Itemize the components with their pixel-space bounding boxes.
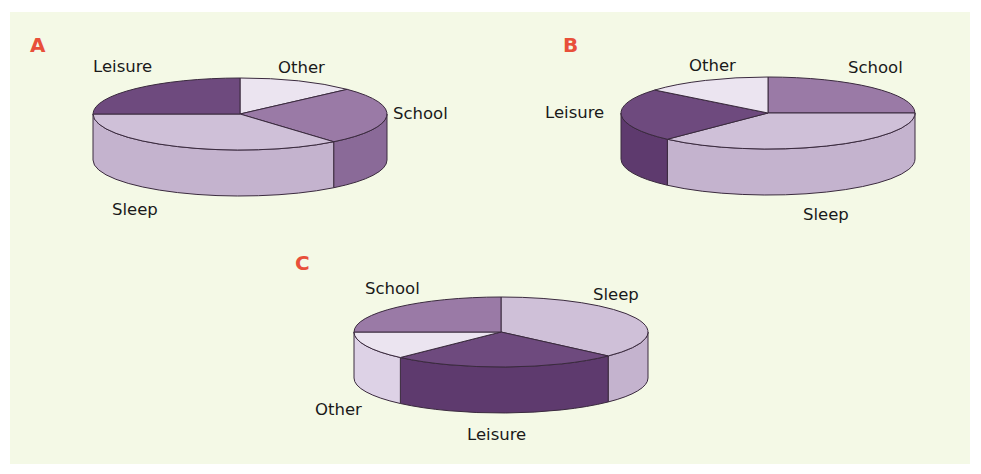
label-school: School: [365, 279, 420, 298]
label-sleep: Sleep: [803, 205, 849, 224]
label-leisure: Leisure: [467, 425, 526, 444]
pie-chart-a: A OtherSchoolSleepLeisure: [30, 33, 448, 219]
label-sleep: Sleep: [593, 285, 639, 304]
label-leisure: Leisure: [93, 57, 152, 76]
pie-top-slices: [354, 297, 648, 367]
label-school: School: [393, 104, 448, 123]
label-other: Other: [278, 58, 325, 77]
label-other: Other: [315, 400, 362, 419]
slice-school: [768, 77, 915, 113]
pie-chart-c: C SleepLeisureOtherSchool: [295, 251, 648, 444]
chart-letter-b: B: [563, 33, 578, 57]
label-other: Other: [689, 56, 736, 75]
slice-leisure: [93, 78, 240, 114]
label-leisure: Leisure: [545, 103, 604, 122]
pie-chart-b: B SchoolSleepLeisureOther: [545, 33, 915, 224]
chart-letter-a: A: [30, 33, 46, 57]
pie-top-slices: [93, 78, 387, 150]
chart-letter-c: C: [295, 251, 310, 275]
label-sleep: Sleep: [112, 200, 158, 219]
pie-top-slices: [621, 77, 915, 149]
label-school: School: [848, 58, 903, 77]
pie-charts-figure: A OtherSchoolSleepLeisure B SchoolSleepL…: [0, 0, 981, 474]
slice-school: [354, 297, 501, 332]
